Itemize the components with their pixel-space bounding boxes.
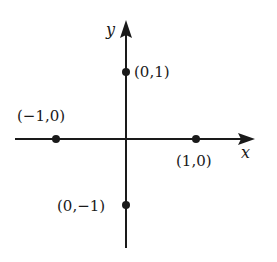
point-label: (1,0): [176, 152, 212, 170]
point-marker: [122, 201, 130, 209]
x-axis: x: [15, 133, 255, 162]
point-label: (0,1): [134, 63, 170, 81]
point-0-neg1: (0,−1): [57, 197, 130, 215]
coordinate-plane: x y (0,1) (−1,0) (1,0) (0,−1): [0, 0, 277, 262]
point-marker: [52, 135, 60, 143]
point-label: (−1,0): [17, 107, 65, 125]
x-axis-label: x: [241, 143, 250, 162]
y-axis-label: y: [105, 20, 116, 39]
point-0-1: (0,1): [122, 63, 170, 81]
point-neg1-0: (−1,0): [17, 107, 65, 143]
y-axis: y: [105, 20, 132, 248]
point-1-0: (1,0): [176, 135, 212, 170]
point-marker: [122, 68, 130, 76]
point-marker: [192, 135, 200, 143]
point-label: (0,−1): [57, 197, 105, 215]
